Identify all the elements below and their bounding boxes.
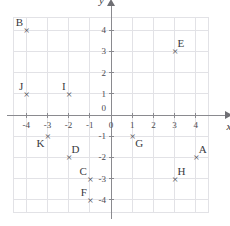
x-axis-tick-label: -4 (22, 121, 30, 130)
x-axis-tick-label: -1 (86, 121, 94, 130)
y-axis-tick-label: 4 (102, 26, 107, 35)
point-marker-icon: × (86, 174, 95, 184)
origin-label: 0 (102, 104, 107, 113)
x-axis-tick-label: 0 (109, 121, 114, 130)
y-axis-tick-label: -3 (99, 174, 107, 183)
y-axis-tick (109, 136, 114, 137)
x-axis-label: x (227, 121, 230, 132)
x-axis-tick (153, 113, 154, 118)
point-label: I (62, 81, 66, 92)
x-axis-tick (68, 113, 69, 118)
y-axis-tick (109, 93, 114, 94)
x-axis (7, 115, 224, 116)
point-label: E (178, 38, 185, 49)
point-label: C (79, 166, 86, 177)
point-marker-icon: × (22, 25, 31, 35)
y-axis-tick (109, 72, 114, 73)
x-axis-arrow-icon (225, 111, 230, 119)
point-label: H (178, 166, 186, 177)
x-axis-tick-label: 2 (151, 121, 156, 130)
y-axis-arrow-icon (107, 0, 115, 6)
point-label: J (19, 81, 23, 92)
point-label: G (135, 138, 143, 149)
y-axis-tick-label: 2 (102, 68, 107, 77)
point-label: K (36, 138, 44, 149)
y-axis-tick (109, 157, 114, 158)
y-axis-tick (109, 178, 114, 179)
point-label: A (199, 144, 207, 155)
y-axis-tick (109, 51, 114, 52)
x-axis-tick-label: 1 (130, 121, 135, 130)
coordinate-plane: xy-4-3-2-101234-4-3-2-112340 ×B×E×J×I×K×… (0, 0, 230, 226)
point-marker-icon: × (65, 89, 74, 99)
x-axis-tick-label: 3 (172, 121, 177, 130)
y-axis-tick (109, 199, 114, 200)
y-axis-tick-label: -1 (99, 132, 107, 141)
y-axis-tick (109, 30, 114, 31)
point-marker-icon: × (43, 131, 52, 141)
x-axis-tick (195, 113, 196, 118)
x-axis-tick-label: -2 (65, 121, 73, 130)
y-axis-tick-label: -2 (99, 153, 107, 162)
y-axis-tick-label: -4 (99, 195, 107, 204)
y-axis-label: y (99, 0, 104, 6)
point-label: F (81, 187, 87, 198)
y-axis-tick-label: 1 (102, 89, 107, 98)
point-marker-icon: × (22, 89, 31, 99)
point-marker-icon: × (86, 195, 95, 205)
x-axis-tick (174, 113, 175, 118)
x-axis-tick (47, 113, 48, 118)
y-axis-tick-label: 3 (102, 47, 107, 56)
y-axis (111, 6, 112, 218)
x-axis-tick-label: 4 (194, 121, 199, 130)
x-axis-tick (89, 113, 90, 118)
point-label: B (16, 17, 23, 28)
x-axis-tick-label: -3 (44, 121, 52, 130)
point-label: D (72, 144, 80, 155)
x-axis-tick (26, 113, 27, 118)
x-axis-tick (132, 113, 133, 118)
